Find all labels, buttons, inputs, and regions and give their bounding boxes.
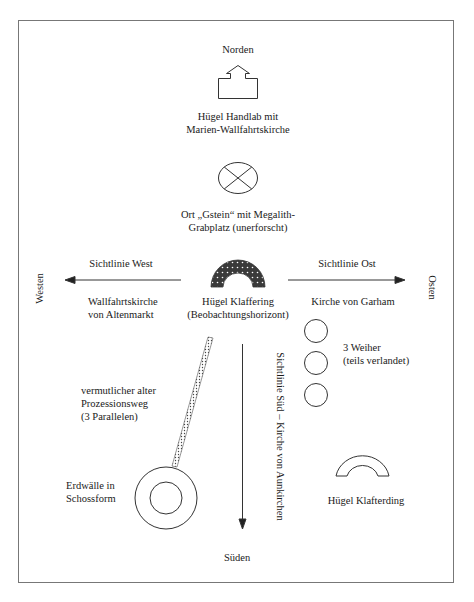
south-arrow-icon: [239, 344, 246, 529]
west-label: Westen: [33, 273, 46, 304]
east-label: Osten: [426, 275, 439, 300]
gstein-label: Ort „Gstein“ mit Megalith- Grabplatz (un…: [181, 208, 295, 234]
handlab-label: Hügel Handlab mit Marien-Wallfahrtskirch…: [186, 110, 290, 136]
crossed-circle-icon: [219, 163, 258, 194]
erdwaelle-label: Erdwälle in Schossform: [66, 479, 116, 505]
prozessionsweg-label: vermutlicher alter Prozessionsweg (3 Par…: [81, 384, 156, 423]
north-label: Norden: [222, 43, 254, 56]
klafterding-label: Hügel Klafterding: [328, 494, 405, 507]
church-arrow-icon: [219, 66, 258, 99]
sightline-east-label: Sichtlinie Ost: [318, 257, 375, 270]
altenmarkt-label: Wallfahrtskirche von Altenmarkt: [88, 295, 158, 321]
arch-icon: [336, 456, 389, 476]
weiher-label: 3 Weiher (teils verlandet): [343, 341, 409, 367]
garham-label: Kirche von Garham: [311, 295, 394, 308]
sightline-south-label: Sichtlinie Süd – Kirche von Aunkirchen: [274, 352, 287, 520]
concentric-circles-icon: [135, 467, 197, 529]
west-arrow-icon: [65, 277, 181, 284]
east-arrow-icon: [288, 277, 405, 284]
dotted-arch-icon: [211, 260, 265, 287]
south-label: Süden: [224, 551, 250, 564]
sightline-west-label: Sichtlinie West: [89, 257, 152, 270]
klaffering-label: Hügel Klaffering (Beobachtungshorizont): [187, 295, 288, 321]
pond-circle-icon: [305, 320, 328, 407]
dotted-path-icon: [172, 337, 213, 467]
